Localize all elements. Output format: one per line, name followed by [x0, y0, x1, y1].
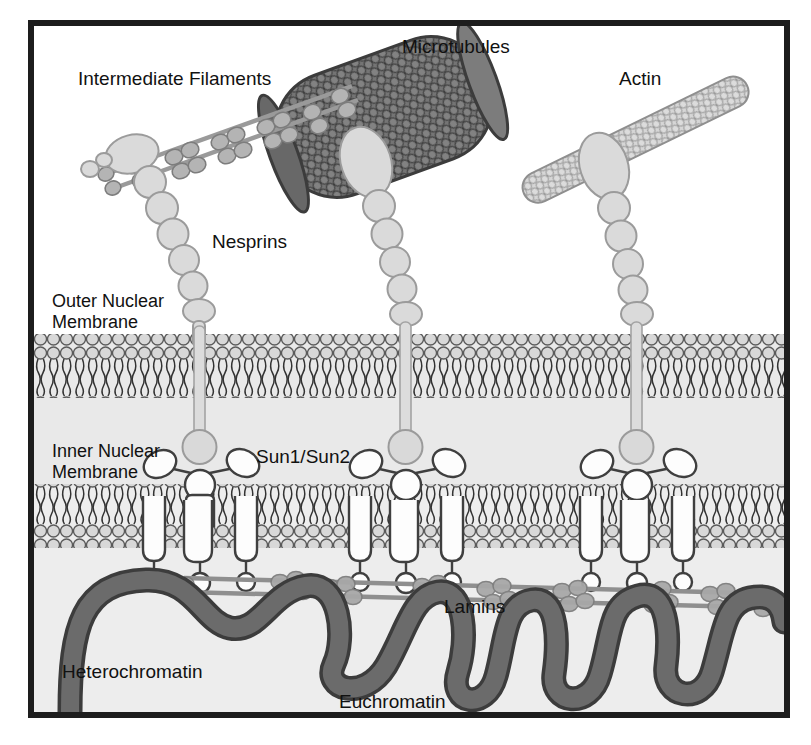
- label-outer-nuclear-membrane: Outer Nuclear Membrane: [52, 291, 202, 333]
- sun-ring: [391, 470, 421, 500]
- label-inner-nuclear-membrane-line2: Membrane: [52, 462, 138, 482]
- label-euchromatin: Euchromatin: [339, 691, 446, 713]
- label-inner-nuclear-membrane: Inner Nuclear Membrane: [52, 441, 202, 483]
- sun-ring: [622, 470, 652, 500]
- nesprin-transmembrane-domain: [400, 322, 411, 438]
- nesprin-transmembrane-domain: [631, 322, 642, 438]
- figure-stage: Intermediate Filaments Microtubules Acti…: [0, 0, 811, 745]
- nesprin-klarsicht-domain: [620, 430, 654, 464]
- label-inner-nuclear-membrane-line1: Inner Nuclear: [52, 441, 160, 461]
- label-microtubules: Microtubules: [402, 36, 510, 58]
- nesprin-klarsicht-domain: [389, 430, 423, 464]
- label-intermediate-filaments: Intermediate Filaments: [78, 68, 271, 90]
- figure-frame: Intermediate Filaments Microtubules Acti…: [28, 20, 790, 718]
- label-sun-proteins: Sun1/Sun2: [256, 446, 350, 468]
- label-lamins: Lamins: [444, 596, 505, 618]
- diagram-canvas: [34, 26, 784, 712]
- label-outer-nuclear-membrane-line2: Membrane: [52, 312, 138, 332]
- label-outer-nuclear-membrane-line1: Outer Nuclear: [52, 291, 164, 311]
- nesprin-transmembrane-domain: [194, 326, 205, 438]
- label-actin: Actin: [619, 68, 661, 90]
- label-nesprins: Nesprins: [212, 231, 287, 253]
- label-heterochromatin: Heterochromatin: [62, 661, 202, 683]
